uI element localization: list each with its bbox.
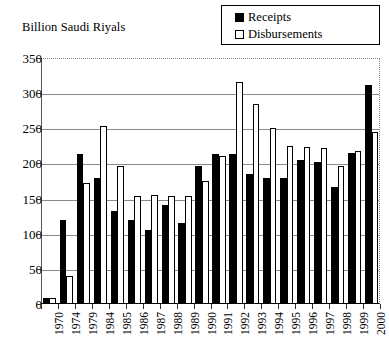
bar-disbursements bbox=[168, 196, 175, 304]
bar-receipts bbox=[128, 220, 135, 304]
bar-group bbox=[312, 58, 329, 304]
x-tick-mark bbox=[143, 304, 144, 309]
bar-receipts bbox=[195, 166, 202, 304]
bar-group bbox=[177, 58, 194, 304]
x-tick-label: 1985 bbox=[122, 312, 134, 335]
bar-disbursements bbox=[270, 128, 277, 304]
bar-disbursements bbox=[202, 181, 209, 304]
bar-group bbox=[211, 58, 228, 304]
bar-group bbox=[194, 58, 211, 304]
bar-disbursements bbox=[253, 104, 260, 304]
bar-disbursements bbox=[66, 276, 73, 304]
x-tick-mark bbox=[346, 304, 347, 309]
legend-item-receipts: Receipts bbox=[235, 9, 379, 26]
x-tick-mark bbox=[363, 304, 364, 309]
x-tick-mark bbox=[312, 304, 313, 309]
bar-receipts bbox=[145, 230, 152, 304]
bar-receipts bbox=[212, 154, 219, 304]
bar-disbursements bbox=[100, 126, 107, 304]
bar-receipts bbox=[162, 205, 169, 304]
bar-disbursements bbox=[287, 146, 294, 304]
bar-receipts bbox=[178, 223, 185, 304]
x-tick-mark bbox=[380, 304, 381, 309]
x-tick-mark bbox=[160, 304, 161, 309]
x-tick-label: 2000 bbox=[376, 312, 388, 335]
bar-receipts bbox=[111, 211, 118, 304]
bar-receipts bbox=[229, 154, 236, 304]
x-tick-label: 1991 bbox=[223, 312, 235, 335]
x-tick-label: 1999 bbox=[359, 312, 371, 335]
bar-group bbox=[41, 58, 58, 304]
x-tick-mark bbox=[278, 304, 279, 309]
bar-group bbox=[143, 58, 160, 304]
bar-disbursements bbox=[83, 183, 90, 304]
bar-disbursements bbox=[49, 298, 56, 304]
bar-receipts bbox=[314, 162, 321, 304]
bar-group bbox=[278, 58, 295, 304]
bar-group bbox=[92, 58, 109, 304]
x-tick-mark bbox=[75, 304, 76, 309]
x-tick-label: 1989 bbox=[190, 312, 202, 335]
x-tick-mark bbox=[211, 304, 212, 309]
bar-group bbox=[244, 58, 261, 304]
legend-item-disbursements: Disbursements bbox=[235, 26, 379, 43]
chart-legend: Receipts Disbursements bbox=[221, 5, 380, 45]
bar-receipts bbox=[60, 220, 67, 304]
x-tick-label: 1995 bbox=[291, 312, 303, 335]
bar-disbursements bbox=[185, 196, 192, 304]
x-tick-label: 1994 bbox=[274, 312, 286, 335]
bar-disbursements bbox=[304, 147, 311, 304]
x-tick-mark bbox=[244, 304, 245, 309]
bar-receipts bbox=[297, 160, 304, 304]
bar-disbursements bbox=[151, 195, 158, 304]
x-tick-mark bbox=[194, 304, 195, 309]
bar-group bbox=[227, 58, 244, 304]
x-tick-mark bbox=[92, 304, 93, 309]
x-tick-label: 1993 bbox=[257, 312, 269, 335]
x-tick-mark bbox=[295, 304, 296, 309]
bar-group bbox=[75, 58, 92, 304]
bar-receipts bbox=[246, 174, 253, 304]
x-tick-mark bbox=[227, 304, 228, 309]
bar-group bbox=[346, 58, 363, 304]
bar-disbursements bbox=[117, 166, 124, 304]
bar-disbursements bbox=[321, 148, 328, 304]
hollow-square-icon bbox=[235, 30, 244, 39]
bar-group bbox=[261, 58, 278, 304]
bar-receipts bbox=[94, 178, 101, 305]
bar-group bbox=[160, 58, 177, 304]
legend-label-disbursements: Disbursements bbox=[248, 28, 322, 41]
x-tick-label: 1997 bbox=[325, 312, 337, 335]
x-tick-label: 1998 bbox=[342, 312, 354, 335]
bar-disbursements bbox=[134, 196, 141, 304]
bar-chart: Billion Saudi Riyals Receipts Disburseme… bbox=[0, 0, 389, 359]
x-tick-label: 1979 bbox=[88, 312, 100, 335]
x-tick-mark bbox=[177, 304, 178, 309]
bar-group bbox=[109, 58, 126, 304]
bar-disbursements bbox=[219, 156, 226, 304]
bar-receipts bbox=[331, 187, 338, 304]
x-tick-label: 1990 bbox=[207, 312, 219, 335]
bar-group bbox=[295, 58, 312, 304]
x-tick-label: 1986 bbox=[139, 312, 151, 335]
bar-receipts bbox=[348, 153, 355, 304]
x-tick-mark bbox=[126, 304, 127, 309]
bars-layer bbox=[41, 58, 380, 304]
x-tick-mark bbox=[329, 304, 330, 309]
bar-group bbox=[363, 58, 380, 304]
bar-receipts bbox=[365, 85, 372, 304]
x-tick-label: 1992 bbox=[240, 312, 252, 335]
x-tick-mark bbox=[261, 304, 262, 309]
bar-disbursements bbox=[236, 82, 243, 304]
y-axis-title: Billion Saudi Riyals bbox=[22, 20, 125, 35]
bar-group bbox=[329, 58, 346, 304]
x-tick-mark bbox=[109, 304, 110, 309]
x-tick-label: 1970 bbox=[54, 312, 66, 335]
x-tick-label: 1974 bbox=[71, 312, 83, 335]
filled-square-icon bbox=[235, 13, 244, 22]
x-tick-label: 1988 bbox=[173, 312, 185, 335]
bar-receipts bbox=[43, 298, 50, 304]
legend-label-receipts: Receipts bbox=[248, 11, 291, 24]
bar-receipts bbox=[280, 178, 287, 304]
x-tick-mark bbox=[41, 304, 42, 309]
